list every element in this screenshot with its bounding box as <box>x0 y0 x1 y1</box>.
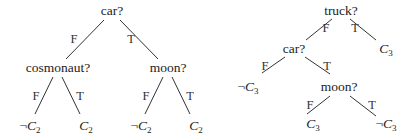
edge-label-false: F <box>33 89 40 103</box>
node-cosmonaut: cosmonaut? <box>26 60 90 75</box>
edge-label-true: T <box>323 59 331 73</box>
leaf-not-c2: ¬C2 <box>19 118 40 135</box>
edge-label-true: T <box>351 21 359 35</box>
edge-label-false: F <box>323 21 330 35</box>
tree-left: car? F T cosmonaut? F T ¬C2 C2 moon? F T… <box>19 3 202 135</box>
leaf-not-c3: ¬C3 <box>375 116 397 133</box>
edge-label-true: T <box>76 89 84 103</box>
leaf-c3: C3 <box>379 41 393 58</box>
edge-label-false: F <box>71 32 78 46</box>
tree-right: truck? F T C3 car? F T ¬C3 moon? F T C3 … <box>237 3 397 133</box>
decision-trees-figure: car? F T cosmonaut? F T ¬C2 C2 moon? F T… <box>0 0 414 136</box>
edge-label-false: F <box>307 98 314 112</box>
edge-label-false: F <box>262 59 269 73</box>
edge-label-true: T <box>368 98 376 112</box>
node-moon: moon? <box>321 79 358 94</box>
leaf-c2: C2 <box>189 118 203 135</box>
edge-label-false: F <box>143 89 150 103</box>
leaf-c3: C3 <box>306 116 320 133</box>
node-moon: moon? <box>150 60 187 75</box>
node-car: car? <box>283 41 305 56</box>
node-car: car? <box>101 3 123 18</box>
edge-label-true: T <box>127 32 135 46</box>
edge-label-true: T <box>186 89 194 103</box>
leaf-not-c3: ¬C3 <box>237 79 259 96</box>
leaf-c2: C2 <box>79 118 93 135</box>
edge-car-true <box>120 20 158 59</box>
node-truck: truck? <box>324 3 358 18</box>
leaf-not-c2: ¬C2 <box>130 118 151 135</box>
